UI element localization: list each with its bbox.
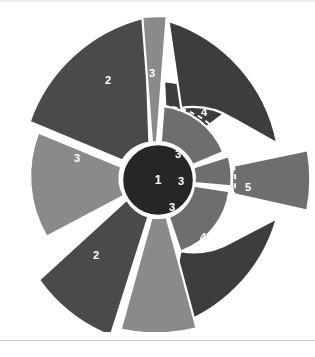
label-center: 1 xyxy=(155,173,162,187)
sunburst-chart: 1 2 3 3 2 3 3 3 3 4 4 5 xyxy=(0,2,315,332)
label-2-upper-left: 2 xyxy=(105,74,111,86)
label-4-upper: 4 xyxy=(201,106,208,118)
bottom-divider xyxy=(0,340,315,341)
label-3-bottom: 3 xyxy=(131,266,137,278)
label-3-inner-upper: 3 xyxy=(175,148,181,160)
label-4-lower: 4 xyxy=(200,231,207,243)
label-3-inner-lower: 3 xyxy=(169,201,175,213)
label-3-left: 3 xyxy=(74,152,80,164)
figure-frame: 1 2 3 3 2 3 3 3 3 4 4 5 xyxy=(0,0,315,357)
label-3-inner-middle: 3 xyxy=(178,175,184,187)
label-2-lower-left: 2 xyxy=(93,249,99,261)
label-3-top: 3 xyxy=(149,67,155,79)
slice-outer-5[interactable] xyxy=(232,150,310,210)
label-5-right: 5 xyxy=(245,181,251,193)
